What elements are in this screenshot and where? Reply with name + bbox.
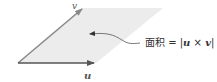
area-label: 面积 = |u × v|: [145, 37, 214, 49]
vector-u-label: u: [84, 70, 91, 81]
parallelogram-area: [18, 8, 163, 63]
vector-v-label: v: [72, 1, 77, 11]
parallelogram-diagram: v u 面积 = |u × v|: [0, 0, 217, 82]
